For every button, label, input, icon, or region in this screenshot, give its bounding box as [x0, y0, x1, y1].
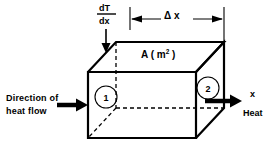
arrow-left-icon [131, 16, 142, 23]
heat-inflow-arrow [57, 99, 88, 112]
face-marker-one: 1 [95, 86, 117, 108]
front-face-outline [88, 72, 196, 138]
area-label: A ( m2 ) [141, 48, 175, 60]
hidden-edge-diagonal [88, 108, 116, 138]
heat-out-label: Heat [243, 108, 263, 118]
gradient-numerator: dT [99, 3, 110, 13]
thickness-dimension: Δ x [130, 7, 224, 42]
gradient-denominator: dx [99, 16, 110, 26]
face-two-label: 2 [205, 84, 210, 94]
arrow-right-thick-icon [76, 99, 88, 112]
arrow-right-icon [212, 16, 223, 23]
face-marker-two: 2 [197, 77, 219, 99]
thickness-label: Δ x [164, 10, 180, 21]
area-close: ) [169, 49, 175, 60]
diagram-canvas: Δ x dT dx A ( m2 ) 1 2 [0, 0, 277, 153]
area-annotation: A ( m2 ) [141, 48, 175, 60]
direction-label-group: Direction of heat flow [6, 93, 59, 116]
area-symbol: A ( m [141, 49, 166, 60]
axis-x-label: x [250, 89, 255, 99]
direction-label-line2: heat flow [6, 106, 48, 116]
heat-conduction-diagram: Δ x dT dx A ( m2 ) 1 2 [0, 0, 277, 153]
direction-label-line1: Direction of [6, 93, 59, 103]
arrow-right-thick-icon-out [230, 95, 242, 108]
face-one-label: 1 [103, 93, 108, 103]
